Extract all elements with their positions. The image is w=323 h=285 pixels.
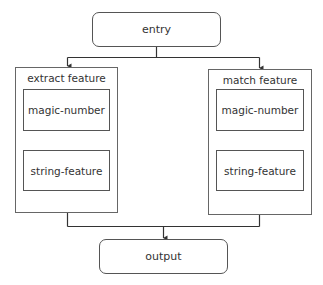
extract-string-feature-label: string-feature — [31, 165, 103, 177]
extract-feature-label: extract feature — [16, 72, 117, 84]
entry-node: entry — [92, 12, 221, 47]
match-feature-label: match feature — [209, 74, 311, 86]
match-string-feature-label: string-feature — [224, 165, 296, 177]
match-string-feature-node: string-feature — [216, 150, 304, 191]
extract-magic-number-node: magic-number — [23, 89, 110, 131]
extract-string-feature-node: string-feature — [23, 150, 110, 191]
output-node: output — [99, 239, 228, 274]
entry-label: entry — [142, 23, 171, 36]
match-magic-number-node: magic-number — [216, 89, 304, 131]
extract-magic-number-label: magic-number — [28, 104, 105, 116]
match-magic-number-label: magic-number — [222, 104, 299, 116]
output-label: output — [145, 250, 181, 263]
